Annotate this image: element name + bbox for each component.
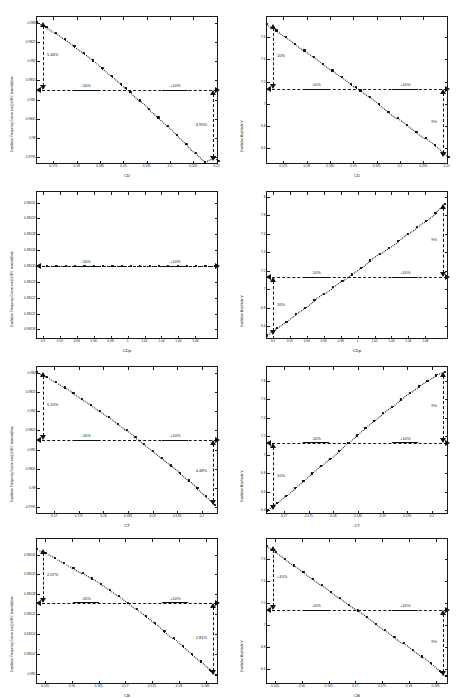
data-path-segment — [321, 585, 331, 592]
x-tick-label: 0.16 — [299, 684, 305, 688]
deviation-bar-right — [443, 614, 444, 672]
y-tick-label: 7.6 — [261, 557, 265, 561]
x-axis-label: CB — [266, 693, 448, 698]
y-tickmark — [267, 647, 270, 648]
x-tick-label: 0.175 — [378, 684, 386, 688]
y-tickmark — [267, 625, 270, 626]
x-tickmark — [329, 681, 330, 684]
x-tick-label: 0.165 — [325, 684, 333, 688]
data-path-segment — [312, 579, 322, 586]
x-tickmark — [409, 539, 410, 542]
y-tickmark — [445, 647, 448, 648]
deviation-bar-left — [273, 550, 274, 607]
x-tickmark — [436, 539, 437, 542]
y-axis-label: Oscillation Amplitude V — [240, 641, 244, 673]
ref-underline-plus — [392, 610, 418, 611]
data-path-segment — [367, 617, 377, 624]
y-tickmark — [445, 603, 448, 604]
y-tickmark — [267, 581, 270, 582]
x-tickmark — [302, 539, 303, 542]
x-tickmark — [355, 539, 356, 542]
data-path-segment — [394, 637, 404, 644]
deviation-arrow-down-left — [270, 605, 276, 610]
ref-label-minus: -10% — [311, 603, 320, 608]
deviation-label-right: 9% — [431, 639, 437, 644]
y-tickmark — [267, 603, 270, 604]
x-tick-label: 0.185 — [432, 684, 440, 688]
y-tickmark — [445, 625, 448, 626]
y-tickmark — [267, 559, 270, 560]
y-tickmark — [445, 581, 448, 582]
data-path-segment — [303, 572, 313, 579]
plot-axes-r4c2: 6.66.877.27.47.60.1550.160.1650.170.1750… — [266, 538, 448, 684]
x-tickmark — [329, 539, 330, 542]
x-tickmark — [302, 681, 303, 684]
data-path-segment — [421, 656, 431, 663]
data-path-segment — [430, 663, 440, 671]
y-tick-label: 7.4 — [261, 579, 265, 583]
x-tickmark — [382, 681, 383, 684]
y-tick-label: 6.6 — [261, 667, 265, 671]
deviation-arrow-up-left — [270, 546, 276, 551]
y-tick-label: 7 — [264, 623, 266, 627]
sensitivity-analysis-figure: 0.97950.980.98050.9810.98150.9820.98250.… — [0, 0, 459, 698]
x-tickmark — [409, 681, 410, 684]
deviation-label-left: +10% — [277, 574, 287, 579]
x-tickmark — [436, 681, 437, 684]
deviation-arrow-up-right — [440, 610, 446, 615]
data-path-segment — [403, 643, 413, 650]
y-tickmark — [267, 669, 270, 670]
x-tick-label: 0.155 — [271, 684, 279, 688]
plot-cell-r4c2: 6.66.877.27.47.60.1550.160.1650.170.1750… — [0, 0, 459, 698]
ref-label-plus: +10% — [400, 603, 410, 608]
x-tickmark — [275, 539, 276, 542]
y-tickmark — [445, 669, 448, 670]
y-tick-label: 7.2 — [261, 601, 265, 605]
ref-underline-minus — [303, 610, 329, 611]
x-tick-label: 0.18 — [406, 684, 412, 688]
y-tick-label: 6.8 — [261, 645, 265, 649]
x-tickmark — [382, 539, 383, 542]
y-tickmark — [445, 559, 448, 560]
deviation-arrow-down-right — [440, 671, 446, 676]
data-path-segment — [339, 598, 349, 605]
x-tickmark — [275, 681, 276, 684]
x-tickmark — [355, 681, 356, 684]
x-tick-label: 0.17 — [352, 684, 358, 688]
